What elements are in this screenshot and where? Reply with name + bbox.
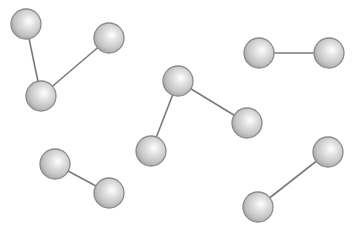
atom-sphere <box>40 149 70 179</box>
atom-sphere <box>11 9 41 39</box>
molecule-diagram-svg <box>0 0 353 230</box>
atom-sphere <box>232 108 262 138</box>
atom-sphere <box>163 66 193 96</box>
atom-sphere <box>26 81 56 111</box>
atom-sphere <box>94 23 124 53</box>
molecule-diagram <box>0 0 353 230</box>
atom-sphere <box>314 38 344 68</box>
atom-sphere <box>94 178 124 208</box>
bonds-layer <box>26 24 329 207</box>
molecule-triatomic-left <box>11 9 124 111</box>
atom-sphere <box>313 137 343 167</box>
atoms-layer <box>11 9 344 222</box>
atom-sphere <box>243 192 273 222</box>
atom-sphere <box>136 136 166 166</box>
molecule-triatomic-center <box>136 66 262 166</box>
atom-sphere <box>244 38 274 68</box>
